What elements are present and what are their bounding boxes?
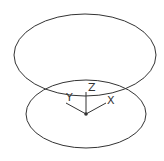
z-axis-label: Z (88, 81, 96, 94)
x-axis-line (86, 103, 106, 114)
origin-marker (84, 112, 88, 116)
diagram-canvas: Z Y X (0, 0, 164, 161)
top-ellipse (14, 14, 156, 96)
y-axis-line (66, 103, 86, 114)
y-axis-label: Y (65, 91, 73, 104)
x-axis-label: X (107, 94, 115, 107)
